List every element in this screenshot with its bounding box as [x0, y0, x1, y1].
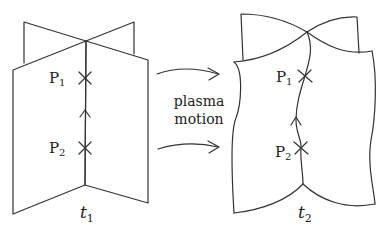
left-front-half-right	[85, 41, 148, 203]
right-front-bottom-right	[303, 184, 375, 206]
left-p2-label: P2	[49, 141, 65, 158]
right-front-left-edge	[232, 62, 241, 213]
bottom-motion-arrow-icon	[158, 144, 218, 149]
left-time-label: t1	[80, 204, 94, 224]
plasma-text: plasma	[164, 92, 234, 110]
left-back-wing-left	[24, 22, 86, 63]
right-front-bottom-left	[234, 184, 303, 213]
plasma-motion-diagram: P1 P2 t1 plasma motion P1 P2 t2	[0, 0, 387, 234]
right-p1-cross-icon	[298, 70, 312, 82]
right-planes	[232, 14, 375, 213]
right-back-wing-left	[241, 14, 307, 60]
left-front-half-left	[13, 41, 86, 214]
right-p2-label: P2	[275, 145, 291, 162]
plasma-motion-label: plasma motion	[164, 92, 234, 128]
right-time-label: t2	[298, 204, 312, 224]
right-front-right-edge	[370, 51, 376, 204]
top-motion-arrow-icon	[157, 69, 218, 74]
right-separator-line	[296, 32, 311, 184]
right-front-top-left	[234, 32, 307, 62]
motion-text: motion	[164, 110, 234, 128]
right-p1-label: P1	[276, 70, 292, 87]
left-p1-cross-icon	[79, 72, 91, 84]
right-front-top-right	[307, 32, 372, 52]
left-back-wing-right	[86, 22, 134, 54]
left-p1-label: P1	[49, 71, 65, 88]
left-planes	[13, 22, 148, 214]
